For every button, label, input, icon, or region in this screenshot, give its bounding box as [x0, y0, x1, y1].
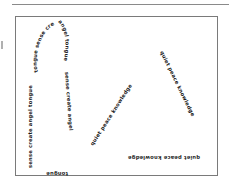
concrete-poetry-figure: sense create angel tongue tongue sense c… — [0, 0, 229, 188]
triangle-bottom-text: quiet peace knowledge — [128, 154, 200, 161]
keyhole-left-text: sense create angel tongue — [27, 85, 34, 168]
keyhole-bottom-text: tongue — [46, 170, 68, 177]
keyhole-loop-right-text: angel tongue — [57, 18, 70, 62]
triangle-left-text: quiet peace knowledge — [89, 82, 133, 147]
keyhole-right-text: sense create angel — [64, 72, 74, 131]
triangle-right-text: quiet peace knowledge — [158, 50, 196, 118]
keyhole-loop-left-text: tongue sense create — [0, 0, 55, 73]
